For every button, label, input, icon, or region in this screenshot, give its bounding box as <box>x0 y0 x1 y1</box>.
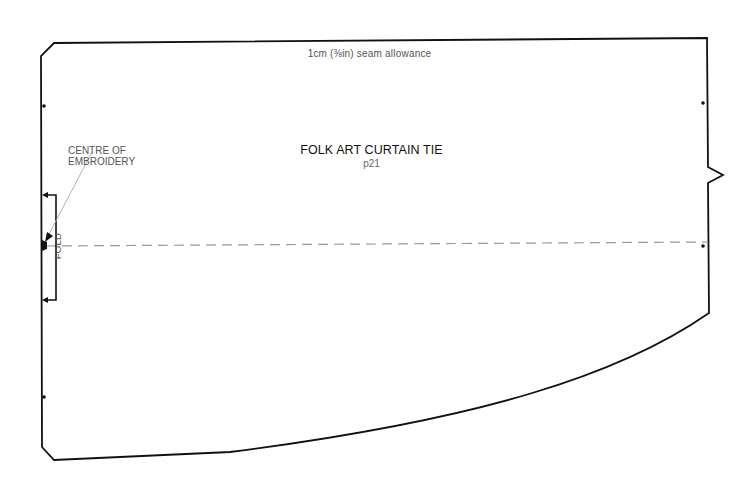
fold-label: FOLD <box>53 233 63 260</box>
marker-dot-top-right <box>701 101 705 105</box>
seam-allowance-label: 1cm (⅜in) seam allowance <box>0 49 735 59</box>
fold-line <box>46 242 707 246</box>
centre-notch-icon <box>42 240 47 251</box>
marker-dot-top-left <box>42 104 46 108</box>
centre-of-embroidery-label: CENTRE OF EMBROIDERY <box>68 145 135 167</box>
marker-dot-fold-right <box>701 244 705 248</box>
pattern-piece-diagram <box>0 0 735 478</box>
centre-label-line2: EMBROIDERY <box>68 156 135 167</box>
pattern-outline <box>41 38 723 460</box>
fold-arrow-top-icon <box>42 192 48 198</box>
marker-dot-bottom-left <box>42 395 46 399</box>
centre-label-line1: CENTRE OF <box>68 145 135 156</box>
fold-arrow-bottom-icon <box>42 297 48 303</box>
